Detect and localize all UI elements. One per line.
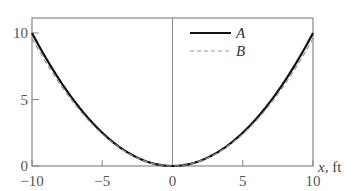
legend-label-b: B: [236, 43, 245, 59]
y-tick-label: 0: [21, 158, 29, 174]
x-tick-label: 10: [306, 173, 321, 189]
x-tick-label: −10: [20, 173, 43, 189]
x-tick-label: 0: [169, 173, 177, 189]
y-tick-label: 10: [13, 25, 28, 41]
legend: A B: [190, 25, 246, 59]
tick-labels: −10−505100510: [13, 25, 321, 189]
x-axis-title: x, ft: [317, 159, 342, 175]
y-tick-label: 5: [21, 92, 29, 108]
legend-label-a: A: [235, 25, 246, 41]
x-tick-label: 5: [239, 173, 247, 189]
x-tick-label: −5: [94, 173, 110, 189]
chart: −10−505100510 A B x, ft: [0, 0, 361, 191]
